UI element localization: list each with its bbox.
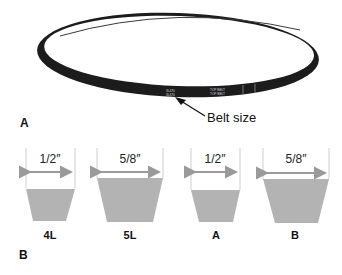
callout-arrow-icon xyxy=(175,97,205,116)
belt-size-callout: Belt size xyxy=(207,110,256,125)
v-belt-illustration: 3L470 3L470 TOP BELT TOP BELT xyxy=(0,0,342,140)
belt-print-brand-2: TOP BELT xyxy=(210,92,225,96)
panel-b-label: B xyxy=(19,248,28,262)
section-name-5l: 5L xyxy=(110,229,150,241)
belt-print-code-2: 3L470 xyxy=(166,93,175,97)
panel-a-label: A xyxy=(20,116,29,130)
section-name-b: B xyxy=(275,229,315,241)
dim-label-a: 1/2″ xyxy=(175,152,255,166)
dim-label-4l: 1/2″ xyxy=(10,152,90,166)
section-name-4l: 4L xyxy=(30,229,70,241)
dim-label-5l: 5/8″ xyxy=(90,152,170,166)
dim-label-b: 5/8″ xyxy=(256,152,336,166)
section-name-a: A xyxy=(196,229,236,241)
